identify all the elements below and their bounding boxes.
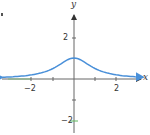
- bullet-mark: [1, 13, 3, 16]
- x-tick-label-2: 2: [114, 85, 119, 93]
- x-tick-label-neg2: −2: [24, 85, 36, 93]
- function-curve: [3, 58, 144, 77]
- y-tick-label-2: 2: [63, 34, 68, 42]
- y-tick-label-neg2: −2: [61, 117, 73, 125]
- function-graph: [0, 0, 150, 135]
- y-axis-label: y: [71, 0, 76, 9]
- x-axis-label: x: [143, 73, 148, 82]
